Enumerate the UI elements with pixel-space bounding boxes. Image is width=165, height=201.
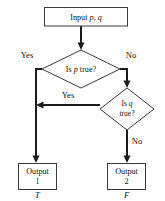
- node-input[interactable]: Input p, q: [45, 8, 128, 27]
- truth-label-left: T: [35, 190, 41, 200]
- node-output-2-label-line1: Output: [115, 167, 138, 176]
- node-decision-q-label-line2: true?: [119, 109, 135, 118]
- node-output-1[interactable]: Output 1: [19, 164, 57, 190]
- truth-label-right: F: [123, 190, 130, 200]
- connector-q-yes-to-left-rail: [36, 102, 100, 109]
- connector-input-to-decision-p: [78, 26, 85, 50]
- flowchart-canvas: Input p, q Is p true? Is q true? Output …: [0, 0, 165, 201]
- node-decision-p[interactable]: Is p true?: [42, 50, 120, 88]
- connector-p-yes-to-output-1: [33, 69, 43, 163]
- node-output-2-label-line2: 2: [124, 177, 128, 186]
- node-decision-q-label-line1: Is q: [121, 99, 132, 108]
- edge-label-p-no: No: [126, 50, 137, 60]
- connector-q-no-to-output-2: [124, 130, 131, 163]
- edge-label-q-yes: Yes: [62, 90, 75, 100]
- connector-p-no-to-decision-q: [120, 69, 131, 88]
- node-output-1-label-line1: Output: [26, 167, 49, 176]
- node-input-label: Input p, q: [70, 12, 102, 21]
- node-decision-p-label: Is p true?: [66, 64, 97, 73]
- node-decision-q[interactable]: Is q true?: [100, 88, 154, 130]
- edge-label-q-no: No: [132, 136, 143, 146]
- edge-label-p-yes: Yes: [21, 50, 34, 60]
- flowchart-diagram: Input p, q Is p true? Is q true? Output …: [0, 0, 165, 201]
- node-output-1-label-line2: 1: [35, 177, 39, 186]
- node-output-2[interactable]: Output 2: [108, 164, 146, 190]
